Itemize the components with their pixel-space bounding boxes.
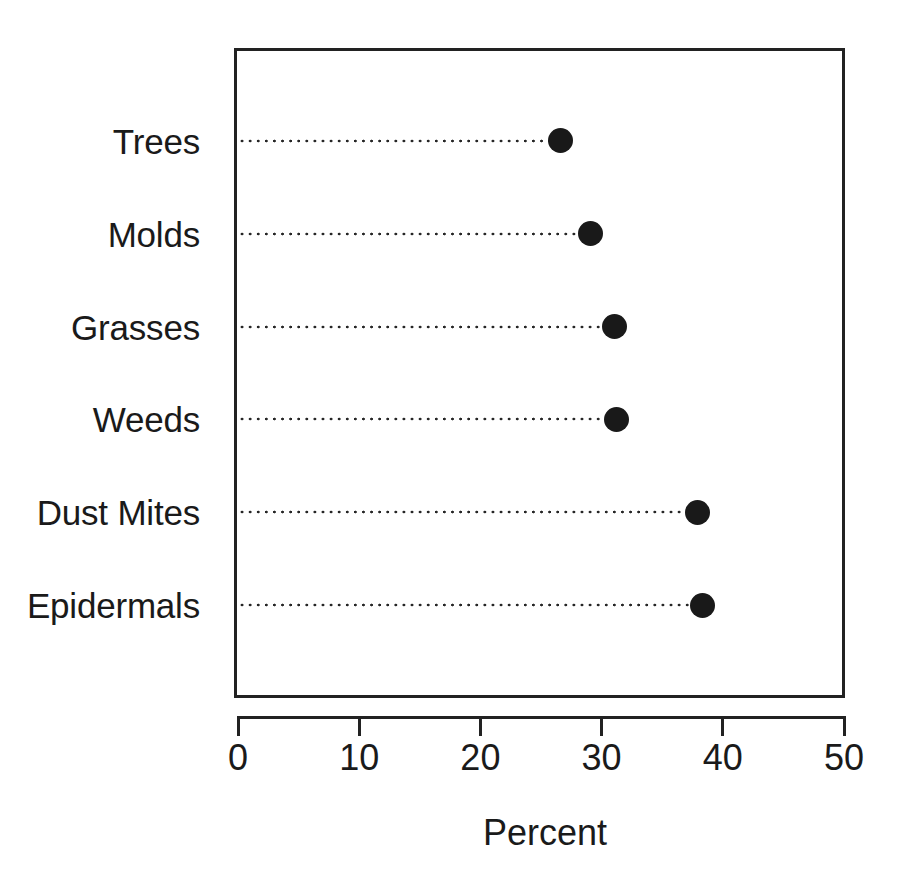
leader-line (238, 232, 582, 236)
leader-line (238, 603, 693, 607)
y-axis-label-molds: Molds (108, 216, 200, 251)
x-axis-tick (721, 716, 724, 736)
x-axis-tick (237, 716, 240, 736)
x-axis-tick-label: 50 (784, 738, 904, 778)
x-axis-tick (600, 716, 603, 736)
data-point-weeds[interactable] (604, 407, 629, 432)
y-axis-label-weeds: Weeds (93, 402, 200, 437)
x-axis-tick-label: 20 (420, 738, 540, 778)
data-point-dust-mites[interactable] (685, 500, 710, 525)
leader-line (238, 139, 551, 143)
y-axis-label-trees: Trees (113, 123, 200, 158)
x-axis-tick (479, 716, 482, 736)
x-axis-title-text: Percent (483, 812, 607, 853)
x-axis-tick-label: 0 (178, 738, 298, 778)
y-axis-label-epidermals: Epidermals (27, 588, 200, 623)
plot-area-frame (234, 48, 845, 698)
chart-figure: Trees Molds Grasses Weeds Dust Mites Epi… (0, 0, 906, 888)
x-axis-tick (358, 716, 361, 736)
leader-line (238, 417, 607, 421)
x-axis-tick (843, 716, 846, 736)
x-axis-line (238, 716, 844, 719)
x-axis-tick-label: 10 (299, 738, 419, 778)
leader-line (238, 325, 606, 329)
y-axis-label-dust-mites: Dust Mites (37, 495, 200, 530)
data-point-epidermals[interactable] (690, 593, 715, 618)
x-axis-tick-label: 30 (542, 738, 662, 778)
x-axis-title: Percent (0, 812, 906, 854)
leader-line (238, 510, 688, 514)
y-axis-label-grasses: Grasses (71, 309, 200, 344)
x-axis-tick-label: 40 (663, 738, 783, 778)
